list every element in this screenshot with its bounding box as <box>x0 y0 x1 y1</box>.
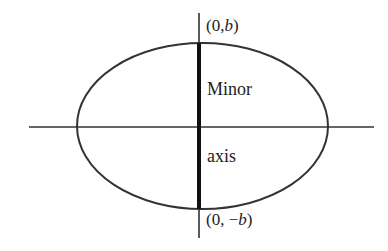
bottom-point-label: (0, −b) <box>206 211 252 228</box>
top-point-label: (0,b) <box>206 17 239 34</box>
axis-label: axis <box>207 147 236 165</box>
ellipse <box>77 43 328 209</box>
ellipse-diagram <box>0 0 388 251</box>
minor-label: Minor <box>207 80 252 98</box>
